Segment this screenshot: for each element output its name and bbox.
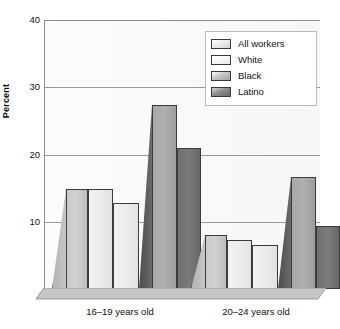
- legend-label-white: White: [238, 55, 262, 65]
- bar-20-24-black-depth-shade: [278, 177, 291, 289]
- legend-label-latino: Latino: [238, 87, 264, 97]
- legend-item-latino: Latino: [211, 84, 311, 100]
- group-1-depth-shade: [52, 189, 66, 289]
- bar-16-19-white: [88, 189, 113, 289]
- x-tick-label-20-24: 20–24 years old: [186, 306, 326, 317]
- legend-swatch-latino: [211, 87, 231, 97]
- legend-item-white: White: [211, 52, 311, 68]
- y-tick-label-40: 40: [18, 15, 40, 25]
- bar-16-19-black-depth-shade: [139, 105, 152, 289]
- bar-20-24-latino: [316, 226, 340, 289]
- legend-label-all-workers: All workers: [238, 39, 284, 49]
- bar-face: [205, 235, 227, 289]
- bar-20-24-black: [291, 177, 316, 289]
- gridline-40: [45, 20, 320, 21]
- legend-swatch-all-workers: [211, 39, 231, 49]
- bar-16-19-white-b: [113, 203, 139, 289]
- legend-item-black: Black: [211, 68, 311, 84]
- y-tick-label-10: 10: [18, 217, 40, 227]
- bar-20-24-all-workers: [205, 235, 227, 289]
- bar-20-24-white: [227, 240, 252, 289]
- legend-item-all-workers: All workers: [211, 36, 311, 52]
- y-tick-label-30: 30: [18, 82, 40, 92]
- legend-swatch-white: [211, 55, 231, 65]
- bar-20-24-white-b: [252, 245, 278, 289]
- bar-face: [291, 177, 316, 289]
- legend-swatch-black: [211, 71, 231, 81]
- y-axis-title: Percent: [1, 66, 15, 136]
- bar-face: [316, 226, 340, 289]
- bar-face: [252, 245, 278, 289]
- bar-face: [152, 105, 177, 289]
- bar-face: [113, 203, 139, 289]
- y-axis-tick-labels: 40 30 20 10: [18, 0, 40, 329]
- bar-face: [88, 189, 113, 289]
- bar-16-19-all-workers: [66, 189, 88, 289]
- legend-label-black: Black: [238, 71, 261, 81]
- x-tick-label-16-19: 16–19 years old: [50, 306, 190, 317]
- bar-16-19-black: [152, 105, 177, 289]
- y-tick-label-20: 20: [18, 150, 40, 160]
- legend: All workers White Black Latino: [205, 31, 317, 106]
- bar-face: [227, 240, 252, 289]
- chart-floor: [36, 288, 326, 302]
- bar-face: [66, 189, 88, 289]
